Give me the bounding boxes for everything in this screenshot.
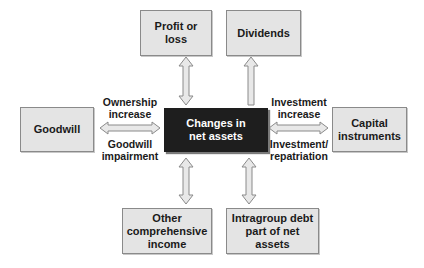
- edge-label-goodwill-impairment: Goodwill impairment: [98, 138, 162, 162]
- node-capital-instruments: Capital instruments: [332, 107, 407, 152]
- arrow-center-oci: [179, 158, 193, 204]
- node-profit-or-loss: Profit or loss: [140, 10, 212, 56]
- node-intragroup-debt: Intragroup debt part of net assets: [226, 208, 319, 254]
- arrow-center-intragroup: [242, 158, 256, 204]
- edge-label-ownership-increase: Ownership increase: [100, 96, 160, 120]
- edge-label-investment-repatriation: Investment/ repatriation: [266, 138, 332, 162]
- arrow-profit-center: [179, 57, 193, 105]
- node-dividends: Dividends: [226, 10, 301, 56]
- arrow-center-dividends: [244, 57, 258, 105]
- edge-label-investment-increase: Investment increase: [268, 96, 330, 120]
- node-other-comprehensive-income: Other comprehensive income: [122, 208, 212, 254]
- node-goodwill: Goodwill: [20, 107, 94, 152]
- node-changes-in-net-assets: Changes in net assets: [164, 108, 268, 152]
- arrow-goodwill-center: [100, 122, 160, 134]
- arrow-center-capital: [269, 122, 328, 134]
